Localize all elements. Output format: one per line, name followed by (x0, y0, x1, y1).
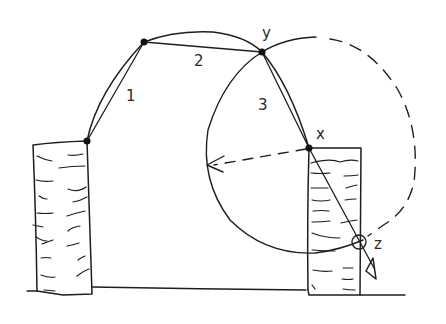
label-point-y: y (262, 24, 271, 42)
arch-curve (87, 32, 309, 148)
arch-diagram: 1 2 3 y x z (0, 0, 446, 324)
arrowhead-left-icon (207, 156, 224, 172)
label-segment-2: 2 (194, 52, 204, 70)
chord-2 (144, 42, 262, 52)
right-pillar (308, 148, 361, 295)
chord-3 (262, 52, 309, 148)
vertex-left-pillar (84, 138, 91, 145)
left-pillar-hatching (33, 154, 89, 291)
label-segment-3: 3 (258, 96, 268, 114)
left-pillar (33, 141, 92, 295)
vertex-top-left (141, 39, 148, 46)
extension-line (309, 148, 376, 279)
vertex-x (306, 145, 313, 152)
radius-arrow (207, 149, 306, 172)
label-segment-1: 1 (126, 87, 136, 105)
label-point-z: z (374, 235, 382, 253)
label-point-x: x (316, 125, 325, 143)
arrowhead-triangle-icon (366, 258, 376, 279)
vertex-y (259, 49, 266, 56)
circle-dashed-arc (330, 39, 415, 236)
